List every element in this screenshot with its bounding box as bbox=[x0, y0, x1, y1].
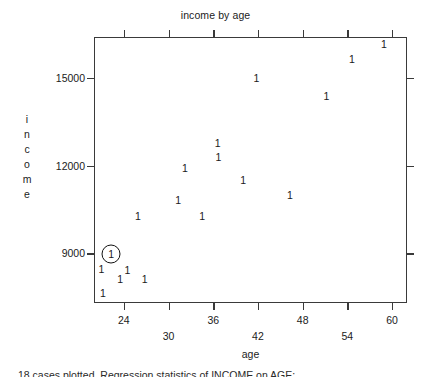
scatter-plot-figure: income by age 90001200015000 11111111111… bbox=[0, 0, 431, 377]
x-axis-tick-bottom bbox=[169, 303, 170, 310]
data-point: 1 bbox=[135, 210, 141, 221]
data-point: 1 bbox=[240, 175, 246, 186]
y-axis-tick-label: 9000 bbox=[62, 247, 85, 259]
x-axis-tick-bottom bbox=[213, 303, 214, 310]
y-axis-title-letter: n bbox=[20, 127, 34, 142]
x-axis-tick-bottom bbox=[124, 303, 125, 310]
data-point: 1 bbox=[99, 264, 105, 275]
x-axis-tick-bottom bbox=[303, 303, 304, 310]
data-point: 1 bbox=[182, 162, 188, 173]
data-point: 1 bbox=[216, 151, 222, 162]
x-axis-tick-top bbox=[347, 30, 348, 37]
data-point: 1 bbox=[381, 38, 387, 49]
y-axis-title-letter: o bbox=[20, 157, 34, 172]
x-axis-tick-top bbox=[213, 30, 214, 37]
y-axis-title-letter: i bbox=[20, 112, 34, 127]
x-axis-tick-label: 60 bbox=[386, 314, 398, 326]
data-point: 1 bbox=[349, 53, 355, 64]
y-axis-tick-left bbox=[87, 253, 94, 254]
y-axis-tick-label-group: 90001200015000 bbox=[0, 0, 94, 377]
x-axis-tick-label: 36 bbox=[207, 314, 219, 326]
y-axis-tick-label: 15000 bbox=[56, 72, 85, 84]
x-axis-tick-top bbox=[303, 30, 304, 37]
x-axis-tick-bottom bbox=[347, 303, 348, 310]
y-axis-tick-left bbox=[87, 78, 94, 79]
plot-area: 111111111111111111 bbox=[94, 37, 407, 303]
data-point: 1 bbox=[287, 189, 293, 200]
x-axis-tick-label: 30 bbox=[163, 330, 175, 342]
y-axis-tick-right bbox=[407, 166, 414, 167]
data-point: 1 bbox=[175, 195, 181, 206]
x-axis-tick-top bbox=[392, 30, 393, 37]
footer-note: 18 cases plotted. Regression statistics … bbox=[18, 369, 295, 377]
y-axis-title-letter: e bbox=[20, 187, 34, 202]
data-point: 1 bbox=[142, 274, 148, 285]
x-axis-tick-label: 24 bbox=[118, 314, 130, 326]
x-axis-tick-top bbox=[124, 30, 125, 37]
y-axis-title-letter: m bbox=[20, 172, 34, 187]
data-point: 1 bbox=[117, 274, 123, 285]
data-point: 1 bbox=[125, 264, 131, 275]
data-point: 1 bbox=[254, 73, 260, 84]
x-axis-tick-top bbox=[258, 30, 259, 37]
x-axis-tick-bottom bbox=[258, 303, 259, 310]
data-point: 1 bbox=[100, 288, 106, 299]
x-axis-title: age bbox=[94, 348, 407, 360]
x-axis-tick-bottom bbox=[392, 303, 393, 310]
data-point-highlighted: 1 bbox=[102, 244, 121, 263]
data-point: 1 bbox=[215, 137, 221, 148]
x-axis-tick-label: 42 bbox=[252, 330, 264, 342]
y-axis-tick-left bbox=[87, 166, 94, 167]
data-point: 1 bbox=[324, 91, 330, 102]
y-axis-tick-right bbox=[407, 78, 414, 79]
x-axis-tick-label: 48 bbox=[297, 314, 309, 326]
y-axis-tick-label: 12000 bbox=[56, 160, 85, 172]
y-axis-title-letter: c bbox=[20, 142, 34, 157]
x-axis-tick-top bbox=[169, 30, 170, 37]
data-point: 1 bbox=[199, 210, 205, 221]
x-axis-tick-label: 54 bbox=[342, 330, 354, 342]
y-axis-title: income bbox=[20, 112, 34, 202]
y-axis-tick-right bbox=[407, 253, 414, 254]
